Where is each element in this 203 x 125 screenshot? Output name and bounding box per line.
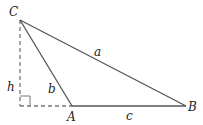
side-label-a: a <box>94 45 101 59</box>
vertex-label-a: A <box>66 110 76 124</box>
side-label-c: c <box>126 109 133 123</box>
altitude-label-h: h <box>7 80 15 94</box>
right-angle-marker <box>20 96 30 106</box>
side-label-b: b <box>48 82 56 96</box>
triangle-diagram: C a b h A c B <box>0 0 203 125</box>
side-a <box>20 20 186 106</box>
vertex-label-b: B <box>187 100 197 114</box>
vertex-label-c: C <box>9 5 18 19</box>
